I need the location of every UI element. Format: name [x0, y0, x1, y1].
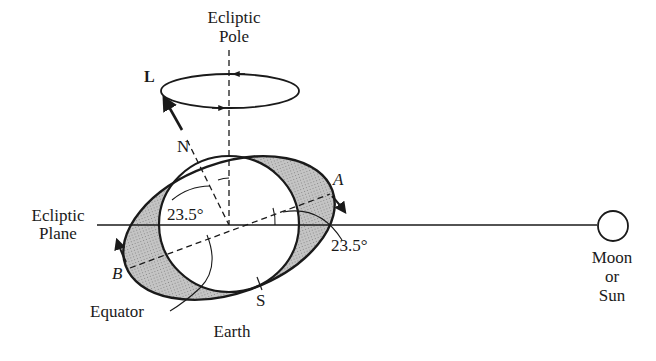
precession-circle: [161, 74, 299, 108]
label-ecliptic-pole-1: Ecliptic: [208, 8, 261, 27]
label-angle-right: 23.5°: [331, 236, 368, 255]
label-angle-upper: 23.5°: [167, 205, 204, 224]
label-equator: Equator: [90, 302, 144, 321]
label-angular-momentum: L: [144, 68, 155, 85]
tidal-bulge-precession-diagram: Ecliptic Pole L N A 23.5° Ecliptic Plane…: [0, 0, 656, 361]
label-point-b: B: [112, 264, 123, 283]
label-sun: Sun: [599, 286, 626, 305]
moon-or-sun-body: [598, 211, 628, 241]
label-north: N: [177, 137, 189, 156]
label-or: or: [605, 267, 620, 286]
label-ecliptic-pole-2: Pole: [219, 27, 249, 46]
label-ecliptic-plane-1: Ecliptic: [32, 206, 85, 225]
label-ecliptic-plane-2: Plane: [39, 224, 77, 243]
label-south: S: [256, 291, 265, 310]
label-point-a: A: [332, 170, 344, 189]
label-earth: Earth: [214, 322, 251, 341]
label-moon: Moon: [592, 248, 633, 267]
